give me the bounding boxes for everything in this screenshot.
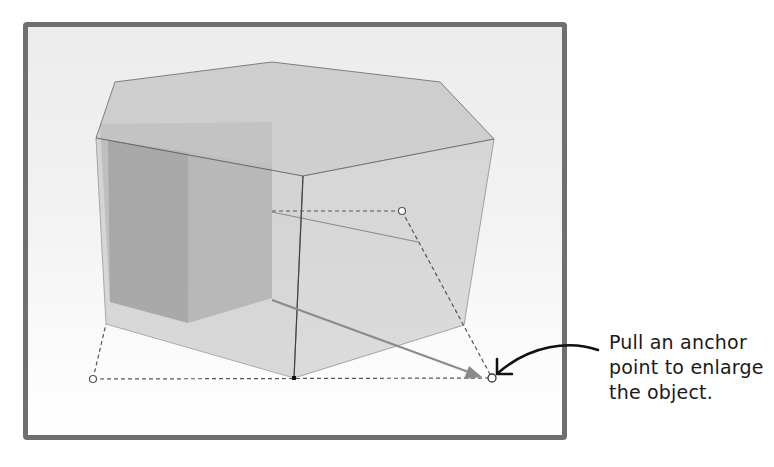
left-front-face	[96, 138, 303, 378]
anchor-point-right[interactable]	[488, 374, 496, 382]
callout-arrow	[497, 345, 598, 374]
caption-line-1: Pull an anchor	[609, 330, 774, 355]
caption-line-2: point to enlarge	[609, 355, 774, 380]
anchor-point-front-bottom[interactable]	[292, 376, 296, 380]
callout-caption: Pull an anchor point to enlarge the obje…	[609, 330, 774, 405]
anchor-point-back[interactable]	[399, 208, 406, 215]
right-front-face	[294, 139, 494, 378]
caption-line-3: the object.	[609, 380, 774, 405]
anchor-point-left[interactable]	[90, 376, 97, 383]
